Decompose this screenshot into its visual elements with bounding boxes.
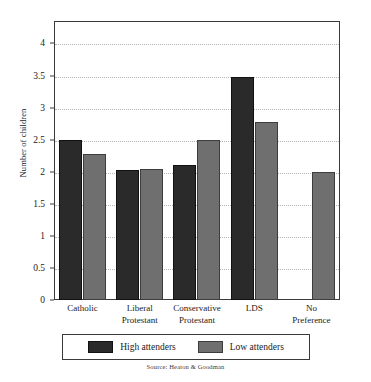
y-tick-label: 3 xyxy=(40,103,45,113)
bars-layer xyxy=(54,21,340,300)
bar-group xyxy=(226,21,283,300)
bar-high-attenders xyxy=(231,77,254,300)
x-tick-label: ConservativeProtestant xyxy=(168,303,225,326)
legend-item-low-attenders: Low attenders xyxy=(198,341,284,353)
bar-high-attenders xyxy=(59,140,82,300)
y-tick-label: 0 xyxy=(40,295,45,305)
y-axis-tick-labels: 00.511.522.533.54 xyxy=(0,0,54,382)
y-tick-label: 3.5 xyxy=(33,71,45,81)
x-tick-label: Catholic xyxy=(54,303,111,315)
y-tick-label: 2 xyxy=(40,167,45,177)
bar-high-attenders xyxy=(116,170,139,300)
y-tick-label: 0.5 xyxy=(33,263,45,273)
bar-chart-figure: Number of children 00.511.522.533.54 Cat… xyxy=(0,0,371,382)
x-axis-tick-labels: CatholicLiberalProtestantConservativePro… xyxy=(54,303,340,331)
y-tick-label: 2.5 xyxy=(33,135,45,145)
legend-swatch-low-attenders xyxy=(198,341,223,353)
bar-group xyxy=(111,21,168,300)
bar-low-attenders xyxy=(197,140,220,300)
legend-label-low-attenders: Low attenders xyxy=(230,342,284,352)
bar-low-attenders xyxy=(312,172,335,300)
y-tick-label: 1.5 xyxy=(33,199,45,209)
bar-group xyxy=(283,21,340,300)
legend-swatch-high-attenders xyxy=(88,341,113,353)
bar-low-attenders xyxy=(140,169,163,300)
chart-legend: High attenders Low attenders xyxy=(62,334,310,360)
source-note: Source: Heaton & Goodman xyxy=(0,363,371,370)
bar-low-attenders xyxy=(83,154,106,300)
bar-high-attenders xyxy=(173,165,196,300)
y-tick-label: 4 xyxy=(40,38,45,48)
x-tick-label: LiberalProtestant xyxy=(111,303,168,326)
x-tick-label: LDS xyxy=(226,303,283,315)
bar-group xyxy=(168,21,225,300)
y-tick-label: 1 xyxy=(40,231,45,241)
legend-label-high-attenders: High attenders xyxy=(120,342,176,352)
bar-low-attenders xyxy=(255,122,278,300)
legend-item-high-attenders: High attenders xyxy=(88,341,176,353)
bar-group xyxy=(54,21,111,300)
x-tick-label: NoPreference xyxy=(283,303,340,326)
